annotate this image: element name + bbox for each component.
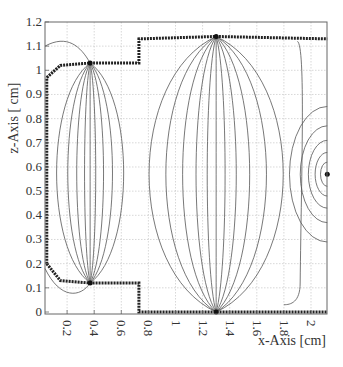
field-contours — [45, 36, 327, 312]
y-tick-label: 0.8 — [26, 111, 42, 126]
x-axis-title: x-Axis [cm] — [258, 333, 326, 348]
contour-plot: 0.20.40.60.811.21.41.61.82 00.10.20.30.4… — [0, 0, 343, 367]
y-tick-label: 0 — [36, 304, 43, 319]
y-tick-label: 0.5 — [26, 183, 42, 198]
x-tick-label: 0.6 — [114, 320, 129, 337]
x-tick-label: 1 — [169, 320, 184, 327]
y-tick-label: 0.9 — [26, 86, 42, 101]
y-tick-label: 1.2 — [26, 14, 42, 29]
x-tick-label: 0.8 — [141, 320, 156, 336]
electrode-boundaries — [47, 34, 330, 315]
x-tick-label: 2 — [304, 320, 319, 327]
y-tick-label: 1.1 — [26, 38, 42, 53]
x-tick-label: 0.2 — [60, 320, 75, 336]
y-tick-label: 1 — [36, 62, 43, 77]
y-tick-label: 0.6 — [26, 159, 43, 174]
y-tick-label: 0.4 — [26, 207, 43, 222]
x-tick-label: 1.4 — [223, 320, 238, 337]
x-tick-label: 1.2 — [196, 320, 211, 336]
y-tick-label: 0.7 — [26, 135, 43, 150]
x-tick-label: 0.4 — [87, 320, 102, 337]
y-tick-label: 0.2 — [26, 256, 42, 271]
y-tick-label: 0.3 — [26, 231, 42, 246]
y-tick-label: 0.1 — [26, 280, 42, 295]
y-axis-title: z-Axis [ cm] — [6, 83, 21, 154]
